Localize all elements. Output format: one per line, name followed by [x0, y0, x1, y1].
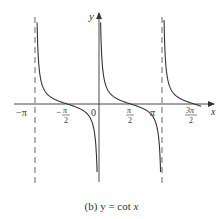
tick-pi: π — [150, 107, 156, 118]
cot-curve — [37, 20, 201, 172]
figure-caption: (b) y = cot x — [0, 200, 223, 212]
tick-half-pi-den: 2 — [128, 116, 132, 125]
tick-half-pi-num: π — [127, 106, 132, 115]
y-axis-label: y — [88, 10, 94, 22]
tick-neg-half-pi-num: π — [63, 106, 68, 115]
x-axis-label: x — [210, 106, 216, 117]
origin-label: 0 — [91, 107, 96, 118]
tick-neg-half-pi-sign: − — [56, 107, 61, 117]
tick-three-half-pi-den: 2 — [189, 116, 193, 125]
tick-three-half-pi-num: 3π — [185, 106, 195, 115]
tick-neg-pi: −π — [16, 107, 27, 118]
cot-graph: y x 0 −π − π 2 π 2 π 3π 2 — [0, 0, 223, 219]
cot-branch-1 — [37, 22, 97, 172]
cot-branch-3 — [164, 20, 201, 106]
cot-branch-2 — [101, 22, 161, 172]
tick-neg-half-pi-den: 2 — [64, 116, 68, 125]
